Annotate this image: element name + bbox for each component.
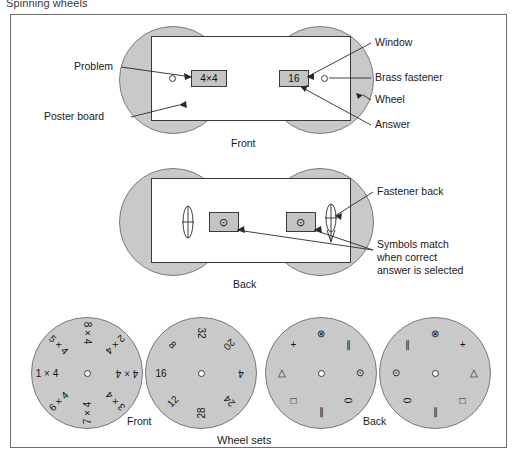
wheel-hub [198, 370, 205, 377]
label-symbols-match-2: when correct [377, 251, 437, 264]
wheel-label: 5 × 4 [47, 333, 71, 357]
label-answer: Answer [375, 118, 410, 131]
wheel-label: 16 [155, 368, 166, 379]
wheel-label: ∥ [346, 340, 351, 350]
wheel-label: 20 [221, 337, 237, 353]
wheel-label: ⊙ [392, 368, 400, 378]
wheel-hub [84, 370, 91, 377]
front-assembly-panel: 4×4 16 Problem Poster board Window Brass [11, 15, 508, 160]
wheel-symbols-back-left: ⊗∥⊙⬭∥□△+ [265, 317, 377, 429]
wheel-label: 4 × 4 [116, 368, 139, 379]
wheel-sets-back-caption: Back [363, 415, 386, 427]
wheel-label: △ [278, 368, 286, 378]
wheel-label: 2 × 4 [103, 333, 127, 357]
wheel-sets-panel: 8 × 42 × 44 × 43 × 47 × 46 × 41 × 45 × 4… [11, 303, 508, 449]
wheel-label: 12 [165, 393, 181, 409]
label-brass-fastener: Brass fastener [375, 71, 443, 84]
label-fastener-back: Fastener back [377, 185, 444, 198]
wheel-label: □ [460, 396, 466, 406]
wheel-label: ∥ [319, 407, 324, 417]
wheel-problem-front: 8 × 42 × 44 × 43 × 47 × 46 × 41 × 45 × 4 [31, 317, 143, 429]
wheel-label: + [460, 340, 466, 350]
wheel-label: 32 [196, 327, 207, 338]
wheel-label: 8 × 4 [82, 322, 93, 345]
label-wheel: Wheel [375, 93, 405, 106]
wheel-label: ⊗ [431, 329, 439, 339]
front-leader-lines [11, 15, 508, 160]
wheel-label: 6 × 4 [47, 389, 71, 413]
wheel-label: 7 × 4 [82, 402, 93, 425]
label-symbols-match-3: answer is selected [377, 264, 463, 277]
wheel-label: △ [470, 368, 478, 378]
wheel-label: ⊙ [356, 368, 364, 378]
wheel-label: ⬭ [344, 396, 353, 406]
wheel-label: 8 [167, 339, 179, 351]
label-window: Window [375, 36, 412, 49]
wheel-label: 24 [221, 393, 237, 409]
label-problem: Problem [74, 60, 113, 73]
figure-title: Spinning wheels [6, 0, 88, 9]
wheel-label: ∥ [405, 340, 410, 350]
wheel-sets-label: Wheel sets [217, 434, 271, 446]
wheel-label: □ [290, 396, 296, 406]
wheel-label: ⊗ [317, 329, 325, 339]
front-caption: Front [231, 137, 256, 149]
wheel-label: 28 [196, 407, 207, 418]
wheel-label: 1 × 4 [36, 368, 59, 379]
wheel-label: 4 [238, 368, 244, 379]
wheel-label: + [291, 340, 297, 350]
wheel-hub [432, 370, 439, 377]
back-assembly-panel: ⊙ ⊙ Fastener back Symbols match when cor… [11, 160, 508, 295]
label-poster-board: Poster board [44, 110, 104, 123]
wheel-symbols-back-right: ⊗+△□∥⬭⊙∥ [379, 317, 491, 429]
wheel-answer-front: 32204242812168 [145, 317, 257, 429]
wheel-label: ∥ [433, 407, 438, 417]
back-caption: Back [233, 278, 256, 290]
label-symbols-match-1: Symbols match [377, 238, 449, 251]
wheel-label: ⬭ [403, 396, 412, 406]
figure-frame: 4×4 16 Problem Poster board Window Brass [10, 14, 507, 448]
wheel-hub [318, 370, 325, 377]
wheel-sets-front-caption: Front [127, 415, 152, 427]
wheel-label: 3 × 4 [103, 389, 127, 413]
